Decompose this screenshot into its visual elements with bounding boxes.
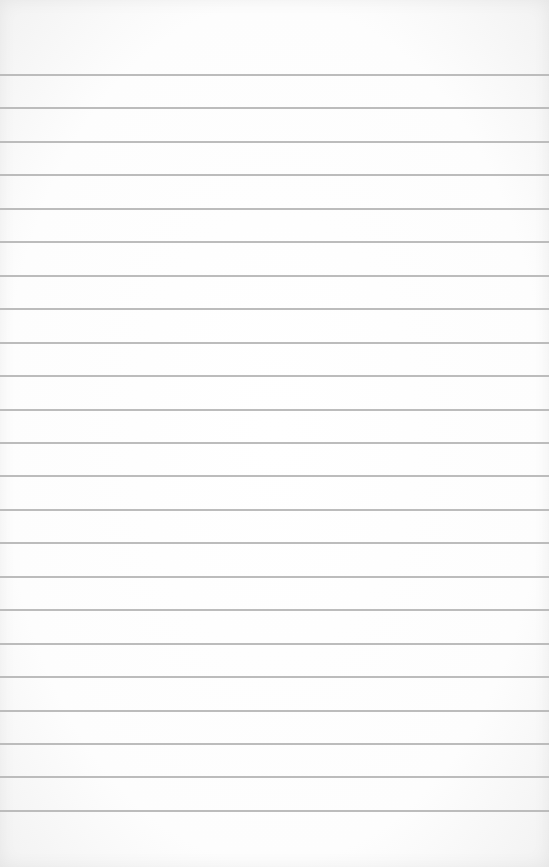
ruled-line [0, 475, 549, 477]
ruled-line [0, 643, 549, 645]
ruled-line [0, 409, 549, 411]
ruled-line [0, 542, 549, 544]
ruled-line [0, 375, 549, 377]
ruled-line [0, 509, 549, 511]
ruled-line [0, 107, 549, 109]
ruled-line [0, 576, 549, 578]
paper-edge-shadow [0, 0, 549, 867]
lined-paper-sheet [0, 0, 549, 867]
ruled-line [0, 141, 549, 143]
ruled-line [0, 609, 549, 611]
ruled-line [0, 676, 549, 678]
ruled-line [0, 776, 549, 778]
ruled-line [0, 442, 549, 444]
ruled-line [0, 208, 549, 210]
ruled-line [0, 74, 549, 76]
ruled-line [0, 308, 549, 310]
ruled-line [0, 174, 549, 176]
ruled-line [0, 743, 549, 745]
ruled-line [0, 241, 549, 243]
ruled-line [0, 342, 549, 344]
ruled-line [0, 710, 549, 712]
ruled-line [0, 275, 549, 277]
ruled-line [0, 810, 549, 812]
